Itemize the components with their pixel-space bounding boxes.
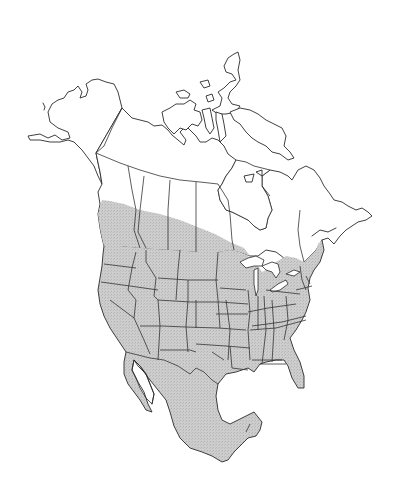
range-map: [0, 0, 404, 477]
